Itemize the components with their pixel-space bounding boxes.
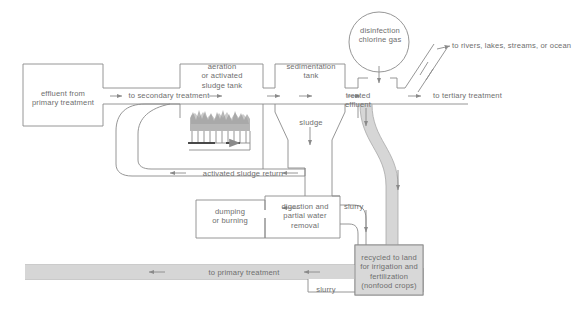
effluent-box-top-edge bbox=[23, 64, 180, 88]
flow-arrows bbox=[110, 46, 450, 232]
sedimentation-tank-top-wall bbox=[275, 64, 358, 88]
diffuser-teeth bbox=[192, 131, 246, 143]
aeration-bubble-plume bbox=[190, 110, 250, 131]
flow-arrows-left bbox=[149, 143, 320, 272]
primary-return-band-bottom bbox=[25, 279, 355, 292]
sedimentation-hopper-right bbox=[332, 104, 345, 196]
effluent-box-bottom-edge bbox=[23, 64, 180, 126]
aeration-tank-top-wall bbox=[180, 64, 275, 88]
digestion-box-top bbox=[305, 168, 340, 196]
diagram-canvas bbox=[0, 0, 579, 315]
sludge-return-inner-loop bbox=[138, 104, 305, 169]
treated-effluent-right-wall bbox=[390, 78, 405, 88]
recycled-box-fill bbox=[355, 245, 423, 295]
digestion-box-bottom bbox=[265, 218, 340, 238]
wastewater-treatment-diagram: effluent from primary treatment aeration… bbox=[0, 0, 579, 315]
disinfection-outlet-wall bbox=[358, 78, 368, 88]
slurry-branch-lower bbox=[340, 224, 358, 245]
outfall-channel-left bbox=[405, 44, 434, 88]
disinfection-circle bbox=[349, 12, 409, 72]
arrow-to-rivers bbox=[437, 46, 450, 49]
dumping-box-bottom bbox=[196, 200, 265, 238]
outfall-flow-tick-b bbox=[426, 69, 433, 80]
dumping-box-top bbox=[196, 200, 265, 210]
sedimentation-hopper-left bbox=[275, 104, 305, 168]
